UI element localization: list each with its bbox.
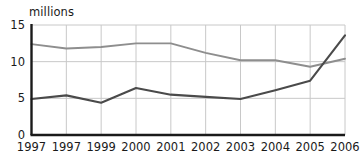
x-axis-tick-label: 1999 — [84, 140, 118, 154]
x-axis-tick-label: 2000 — [119, 140, 153, 154]
series-line-lower-series — [32, 35, 346, 102]
series-line-upper-series — [32, 43, 346, 66]
x-axis-tick-label: 1997 — [49, 140, 83, 154]
x-axis-tick-label: 2002 — [189, 140, 223, 154]
x-axis-tick-label: 2006 — [328, 140, 362, 154]
x-axis-tick-label: 1997 — [15, 140, 49, 154]
x-axis-tick-label: 2001 — [154, 140, 188, 154]
y-axis-tick-label: 15 — [3, 18, 25, 32]
x-axis-tick-label: 2004 — [258, 140, 292, 154]
x-axis-tick-label: 2005 — [293, 140, 327, 154]
y-axis-tick-label: 10 — [3, 55, 25, 69]
x-axis-tick-label: 2003 — [224, 140, 258, 154]
y-axis-tick-label: 5 — [3, 91, 25, 105]
